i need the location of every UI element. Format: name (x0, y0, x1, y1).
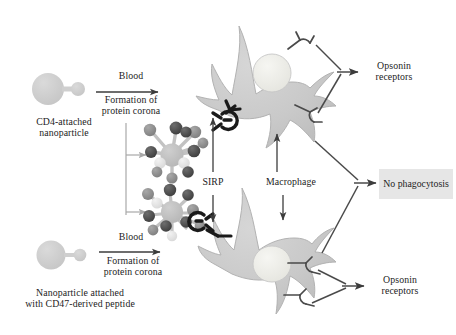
protein-corona-label-top: Formation of protein corona (86, 94, 176, 117)
cd4-nanoparticle-label: CD4-attached nanoparticle (14, 116, 114, 139)
macrophage-bottom (198, 188, 336, 314)
no-phagocytosis-box: No phagocytosis (379, 169, 453, 199)
nanoparticle-top (32, 73, 85, 105)
blood-label-bottom: Blood (108, 231, 154, 242)
cd47-nanoparticle-label: Nanoparticle attached with CD47-derived … (8, 287, 152, 310)
opsonin-receptors-label-top: Opsonin receptors (358, 60, 430, 83)
blood-label-top: Blood (108, 70, 154, 81)
opsonin-receptor-top-1 (288, 32, 314, 49)
figure-canvas: Blood Formation of protein corona Blood … (0, 0, 456, 335)
sirp-label: SIRP (193, 176, 233, 187)
macrophage-label: Macrophage (253, 176, 329, 187)
corona-cluster-top (144, 122, 209, 184)
opsonin-receptors-label-bottom: Opsonin receptors (364, 274, 436, 297)
nanoparticle-bottom (37, 241, 87, 270)
macrophage-top (196, 26, 336, 148)
protein-corona-label-bottom: Formation of protein corona (88, 255, 178, 278)
corona-branch-connector (126, 123, 146, 215)
opsonin-pointer-bottom (312, 270, 364, 303)
